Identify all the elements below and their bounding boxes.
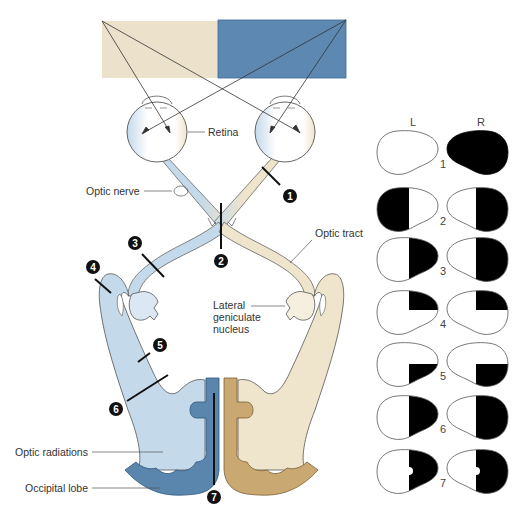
lesion-badge-4: 4 <box>86 260 100 274</box>
svg-text:4: 4 <box>90 262 96 273</box>
lesion-badge-7: 7 <box>207 490 221 504</box>
visual-field-scene <box>102 20 346 78</box>
lesion-badge-1: 1 <box>283 189 297 203</box>
label-lgn-line1: Lateral <box>213 299 245 311</box>
right-optic-nerve <box>214 158 280 230</box>
right-optic-tract <box>219 222 315 296</box>
left-hemisphere-radiation <box>99 274 219 495</box>
field-row-3: 3 <box>377 235 510 285</box>
svg-text:5: 5 <box>157 340 163 351</box>
right-lgn <box>286 291 315 320</box>
visual-pathway-figure: Retina Optic nerve Optic tract Lateral g… <box>0 0 527 519</box>
svg-text:6: 6 <box>113 404 119 415</box>
svg-text:3: 3 <box>440 265 446 277</box>
lesion-badge-6: 6 <box>109 402 123 416</box>
column-header-right: R <box>477 116 485 128</box>
field-row-4: 4 <box>377 288 510 334</box>
label-optic-radiations: Optic radiations <box>15 446 88 458</box>
label-lgn-line3: nucleus <box>213 323 249 335</box>
lesion-badge-5: 5 <box>153 338 167 352</box>
label-optic-tract: Optic tract <box>315 227 363 239</box>
label-lgn-line2: geniculate <box>213 311 261 323</box>
visual-field-defects: L R 1 2 3 4 5 <box>377 116 510 497</box>
field-row-2: 2 <box>377 185 510 235</box>
svg-text:7: 7 <box>440 477 446 489</box>
left-optic-tract <box>128 222 224 296</box>
field-row-6: 6 <box>377 393 510 443</box>
svg-text:5: 5 <box>440 370 446 382</box>
label-optic-nerve: Optic nerve <box>86 185 140 197</box>
lesion-badge-2: 2 <box>214 254 228 268</box>
svg-text:6: 6 <box>440 423 446 435</box>
field-row-7: 7 <box>377 447 510 497</box>
left-lgn <box>129 291 158 320</box>
svg-text:3: 3 <box>132 238 138 249</box>
field-row-5: 5 <box>377 343 510 390</box>
svg-text:2: 2 <box>218 256 224 267</box>
svg-text:1: 1 <box>440 158 446 170</box>
lesion-badge-3: 3 <box>128 236 142 250</box>
svg-text:2: 2 <box>440 215 446 227</box>
label-retina: Retina <box>208 126 239 138</box>
svg-text:4: 4 <box>440 318 446 330</box>
svg-text:7: 7 <box>211 492 217 503</box>
column-header-left: L <box>410 116 416 128</box>
label-occipital-lobe: Occipital lobe <box>25 482 88 494</box>
right-eye <box>255 96 315 162</box>
field-row-1: 1 <box>377 131 508 175</box>
svg-text:1: 1 <box>287 191 293 202</box>
left-eye <box>127 96 187 162</box>
